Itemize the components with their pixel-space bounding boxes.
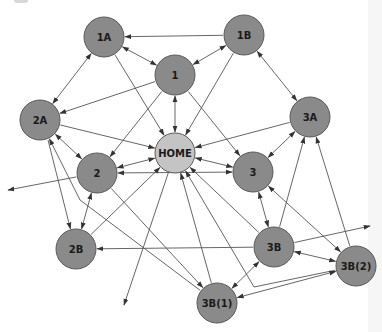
edge-3b-to-3 (259, 192, 269, 227)
edge-3b2-to-3a (316, 137, 350, 246)
edge-1b-to-1a (125, 35, 223, 36)
node-1[interactable]: 1 (155, 55, 195, 95)
node-3b2[interactable]: 3B(2) (336, 246, 376, 286)
node-label: 2A (33, 115, 48, 126)
edge-2a-to-home (60, 125, 154, 148)
edge-home-to-2 (117, 158, 154, 168)
node-label: 3B(2) (341, 261, 372, 272)
node-2[interactable]: 2 (77, 153, 117, 193)
edge-2-to-off-left (8, 177, 76, 190)
edge-3b-to-off-right (295, 226, 371, 243)
node-label: 1A (97, 32, 112, 43)
node-label: 2 (94, 168, 101, 179)
node-label: 3A (303, 112, 318, 123)
edge-2b-to-2 (82, 193, 92, 229)
node-3b[interactable]: 3B (254, 227, 294, 267)
node-label: 3B (267, 242, 282, 253)
node-label: 1 (172, 70, 179, 81)
edge-3b-to-2b (97, 247, 253, 249)
node-label: 3B(1) (202, 298, 233, 309)
site-navigation-diagram: 1A1B12A3AHOME232B3B3B(2)3B(1) (0, 0, 382, 332)
node-3a[interactable]: 3A (290, 97, 330, 137)
edge-3b-to-3b1 (232, 262, 259, 289)
edge-3a-to-home (195, 122, 289, 147)
edge-home-to-3 (195, 158, 232, 167)
edge-1b-to-1 (193, 46, 226, 65)
edge-home-to-off-bottom (124, 173, 168, 305)
node-3b1[interactable]: 3B(1) (197, 283, 237, 323)
edge-1a-to-2a (53, 54, 91, 104)
edge-3b1-to-home (181, 173, 212, 283)
edge-1b-to-3a (257, 51, 297, 100)
node-1a[interactable]: 1A (84, 17, 124, 57)
edge-1-to-2 (110, 91, 162, 156)
edge-3a-to-3 (268, 132, 295, 158)
node-home[interactable]: HOME (155, 133, 195, 173)
node-3[interactable]: 3 (233, 152, 273, 192)
node-label: 2B (69, 244, 84, 255)
node-1b[interactable]: 1B (224, 15, 264, 55)
node-2b[interactable]: 2B (56, 229, 96, 269)
node-2a[interactable]: 2A (20, 100, 60, 140)
node-label: HOME (158, 148, 192, 159)
edge-3b-to-3b2 (295, 252, 336, 262)
edge-2a-to-2 (55, 134, 81, 158)
edge-1-to-3 (188, 91, 240, 155)
edge-1a-to-1 (123, 47, 157, 65)
edge-3b-to-3a (280, 137, 305, 227)
edge-2a-to-2b (48, 140, 70, 229)
node-label: 1B (237, 30, 252, 41)
node-label: 3 (250, 167, 257, 178)
